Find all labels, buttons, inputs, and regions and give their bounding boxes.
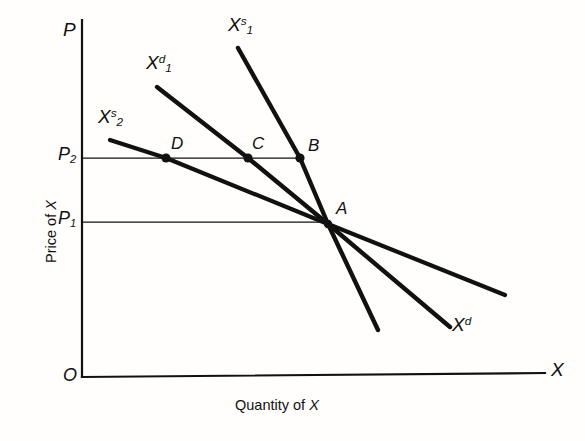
curve-label-demand-1: Xd1 <box>146 53 172 72</box>
supply-curve-1 <box>238 48 378 330</box>
point-label-c: C <box>252 135 264 152</box>
point-label-b: B <box>308 137 319 154</box>
demand-curve-1 <box>157 87 450 327</box>
marker-point-d <box>161 153 170 162</box>
origin-symbol: O <box>63 366 77 384</box>
x-axis-title: Quantity of X <box>235 398 319 413</box>
curve-label-supply-2: Xs2 <box>98 107 123 126</box>
y-axis-symbol: P <box>63 20 76 39</box>
point-label-d: D <box>171 135 183 152</box>
curve-label-supply-1: Xs1 <box>228 15 253 34</box>
curve-label-demand: Xd <box>452 315 471 334</box>
x-axis-symbol: X <box>551 360 564 379</box>
supply-demand-figure: P X O P2 P1 Xs1 Xd1 Xs2 Xd D C B A Price… <box>0 0 585 441</box>
figure-canvas <box>0 0 585 441</box>
x-axis-line <box>82 373 545 377</box>
marker-point-a <box>324 220 332 228</box>
supply-curve-2 <box>110 140 505 295</box>
y-axis-title: Price of X <box>44 200 59 263</box>
point-label-a: A <box>336 200 347 217</box>
price-tick-p1: P1 <box>58 209 76 227</box>
price-tick-p2: P2 <box>58 145 76 163</box>
marker-point-c <box>243 153 252 162</box>
marker-point-b <box>295 153 304 162</box>
